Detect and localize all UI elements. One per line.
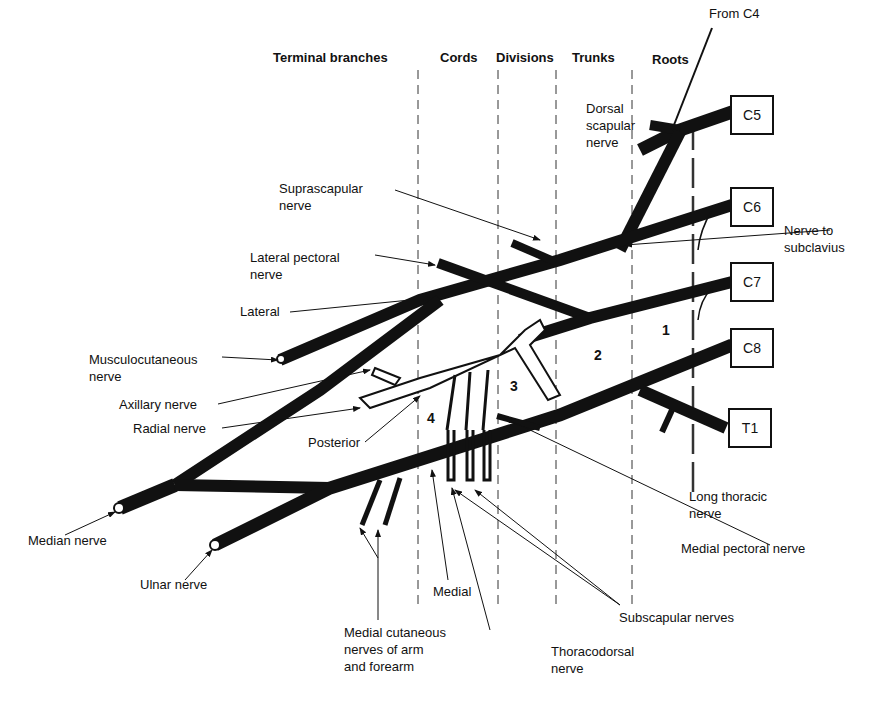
header-divisions: Divisions xyxy=(496,50,554,65)
root-c5: C5 xyxy=(730,95,774,135)
label-radial-nerve: Radial nerve xyxy=(133,420,206,437)
label-subscapular-nerves: Subscapular nerves xyxy=(619,609,734,626)
label-ulnar-nerve: Ulnar nerve xyxy=(140,576,207,593)
root-t1: T1 xyxy=(728,408,772,448)
label-lateral-cord: Lateral xyxy=(240,303,280,320)
root-c7: C7 xyxy=(730,262,774,302)
region-number-4: 4 xyxy=(427,410,435,426)
subscapular-branches xyxy=(447,370,490,480)
label-posterior-cord: Posterior xyxy=(308,434,360,451)
header-roots: Roots xyxy=(652,52,689,67)
label-medial-pectoral-nerve: Medial pectoral nerve xyxy=(681,540,805,557)
label-musculocutaneous-nerve: Musculocutaneous nerve xyxy=(89,351,197,385)
header-terminal-branches: Terminal branches xyxy=(273,50,388,65)
label-thoracodorsal-nerve: Thoracodorsal nerve xyxy=(551,643,634,677)
region-number-1: 1 xyxy=(662,322,670,338)
header-trunks: Trunks xyxy=(572,50,615,65)
label-lateral-pectoral-nerve: Lateral pectoral nerve xyxy=(250,249,340,283)
nerve-trunks xyxy=(120,28,732,545)
region-number-2: 2 xyxy=(594,347,602,363)
header-cords: Cords xyxy=(440,50,478,65)
label-suprascapular-nerve: Suprascapular nerve xyxy=(279,180,363,214)
label-long-thoracic-nerve: Long thoracic nerve xyxy=(689,488,767,522)
label-from-c4: From C4 xyxy=(709,5,760,22)
label-axillary-nerve: Axillary nerve xyxy=(119,396,197,413)
label-nerve-to-subclavius: Nerve to subclavius xyxy=(784,222,845,256)
region-number-3: 3 xyxy=(510,378,518,394)
label-medial-cutaneous-nerves: Medial cutaneous nerves of arm and forea… xyxy=(344,624,446,675)
root-c6: C6 xyxy=(730,187,774,227)
label-median-nerve: Median nerve xyxy=(28,532,107,549)
root-c8: C8 xyxy=(730,328,774,368)
label-medial-cord: Medial xyxy=(433,583,471,600)
label-dorsal-scapular-nerve: Dorsal scapular nerve xyxy=(586,100,635,151)
